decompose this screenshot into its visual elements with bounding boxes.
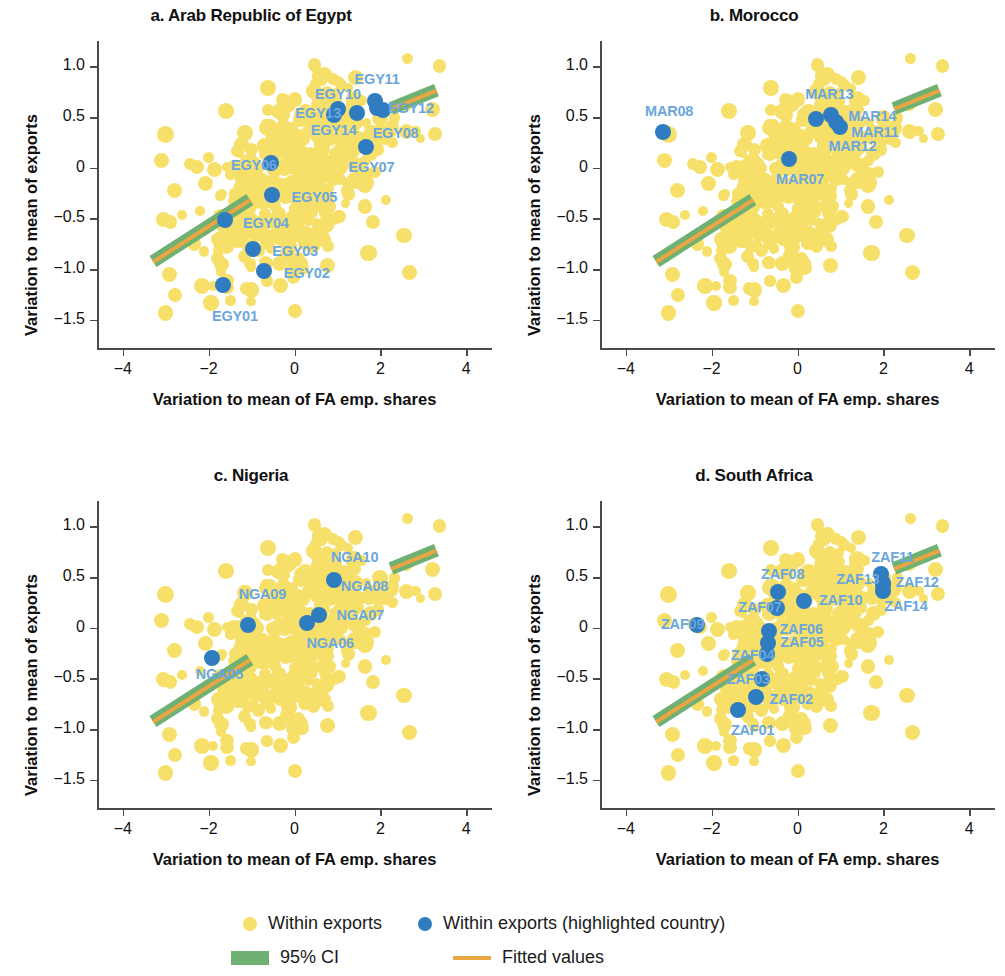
background-point (815, 528, 831, 544)
background-point (936, 519, 949, 532)
x-tick-label-4: 4 (939, 360, 999, 378)
background-point (332, 670, 346, 684)
point-label-ZAF07: ZAF07 (738, 599, 781, 615)
background-point (845, 647, 859, 661)
y-tick-1 (90, 577, 97, 579)
background-point (697, 278, 713, 294)
background-point (790, 582, 801, 593)
background-point (237, 125, 253, 141)
background-point (721, 232, 733, 244)
legend-row-1: Within exports Within exports (highlight… (243, 913, 725, 934)
background-point (790, 210, 805, 225)
x-tick-0 (123, 808, 125, 816)
background-point (402, 53, 413, 64)
background-point (718, 190, 728, 200)
background-point (884, 655, 894, 665)
point-label-EGY01: EGY01 (212, 308, 258, 324)
y-tick-0 (90, 526, 97, 528)
background-point (260, 540, 276, 556)
background-point (851, 70, 866, 85)
point-label-ZAF14: ZAF14 (884, 598, 927, 614)
figure-root: a. Arab Republic of EgyptVariation to me… (0, 0, 1005, 976)
x-tick-0 (626, 808, 628, 816)
background-point (261, 735, 272, 746)
background-point (225, 755, 236, 766)
point-label-EGY05: EGY05 (291, 189, 337, 205)
background-point (758, 192, 774, 208)
point-label-ZAF06: ZAF06 (779, 621, 822, 637)
y-tick-3 (90, 678, 97, 680)
background-point (764, 275, 775, 286)
y-tick-1 (593, 577, 600, 579)
x-tick-4 (969, 808, 971, 816)
background-point (295, 157, 310, 172)
background-point (717, 717, 732, 732)
point-label-EGY07: EGY07 (349, 159, 395, 175)
background-point (680, 670, 690, 680)
x-tick-label-4: 4 (939, 820, 999, 838)
background-point (835, 670, 849, 684)
background-point (287, 582, 298, 593)
background-point (207, 622, 222, 637)
x-tick-2 (798, 808, 800, 816)
background-point (399, 584, 414, 599)
y-tick-5 (90, 780, 97, 782)
x-tick-label-3: 2 (853, 820, 913, 838)
point-label-EGY06: EGY06 (231, 157, 277, 173)
background-point (791, 764, 805, 778)
background-point (728, 295, 739, 306)
point-label-MAR07: MAR07 (776, 171, 824, 187)
background-point (199, 246, 210, 257)
y-tick-label-2: 0 (532, 618, 588, 636)
highlighted-point-ZAF08 (770, 584, 786, 600)
background-point (899, 688, 915, 704)
background-point (154, 153, 169, 168)
y-tick-2 (593, 628, 600, 630)
background-point (762, 256, 775, 269)
legend-item-fitted-values: Fitted values (453, 947, 604, 968)
background-point (162, 727, 177, 742)
y-tick-label-2: 0 (29, 618, 85, 636)
blue-dot-icon (418, 917, 432, 931)
background-point (936, 59, 949, 72)
y-tick-label-1: 0.5 (532, 107, 588, 125)
background-point (312, 528, 328, 544)
background-point (702, 246, 713, 257)
background-point (207, 162, 222, 177)
x-tick-1 (209, 808, 211, 816)
background-point (257, 686, 267, 696)
background-point (790, 122, 801, 133)
background-point (661, 305, 676, 320)
background-point (358, 659, 373, 674)
background-point (743, 742, 756, 755)
panel-b: b. MoroccoVariation to mean of exportsVa… (503, 0, 1005, 440)
x-tick-label-4: 4 (436, 360, 496, 378)
background-point (928, 102, 943, 117)
background-point (177, 670, 187, 680)
point-label-MAR14: MAR14 (848, 108, 896, 124)
background-point (698, 666, 708, 676)
background-point (320, 675, 331, 686)
background-point (845, 187, 859, 201)
background-point (203, 612, 214, 623)
y-tick-label-5: −1.5 (532, 770, 588, 788)
x-tick-label-0: −4 (596, 360, 656, 378)
panel-c: c. NigeriaVariation to mean of exportsVa… (0, 460, 502, 900)
y-tick-2 (90, 628, 97, 630)
background-point (671, 748, 685, 762)
x-tick-label-0: −4 (93, 360, 153, 378)
background-point (154, 613, 169, 628)
y-tick-label-3: −0.5 (532, 668, 588, 686)
y-tick-label-3: −0.5 (532, 208, 588, 226)
background-point (657, 153, 672, 168)
y-tick-label-1: 0.5 (29, 567, 85, 585)
background-point (168, 748, 182, 762)
point-label-ZAF10: ZAF10 (819, 592, 862, 608)
background-point (710, 622, 725, 637)
background-point (680, 210, 690, 220)
point-label-ZAF04: ZAF04 (731, 647, 774, 663)
background-point (863, 705, 879, 721)
point-label-ZAF11: ZAF11 (871, 549, 914, 565)
legend-label-within-exports: Within exports (268, 913, 382, 934)
background-point (240, 742, 253, 755)
